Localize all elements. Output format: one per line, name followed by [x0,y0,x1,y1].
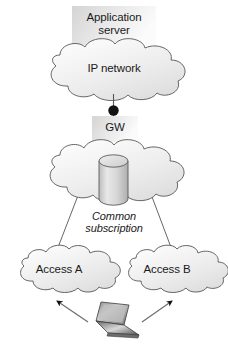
access-b-label: Access B [128,263,206,276]
app-server-label: Application server [72,11,156,37]
subscription-database-label: Common subscription [57,210,171,235]
diagram-canvas [0,0,228,347]
connector-node-dot [108,105,118,115]
subscription-database-cylinder [99,155,128,205]
gateway-label: GW [92,121,138,134]
laptop-icon [96,302,139,338]
arrow-terminal-access-a [57,301,88,322]
network-diagram: Application server IP network GW Common … [0,0,228,347]
ip-network-label: IP network [58,62,170,75]
access-a-label: Access A [20,263,98,276]
arrow-terminal-access-b [142,301,172,322]
